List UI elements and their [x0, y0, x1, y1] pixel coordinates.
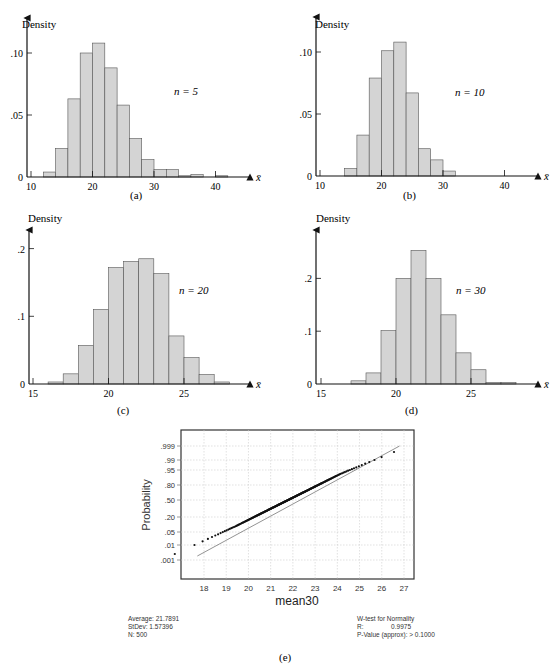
y-tick-label: .05 — [300, 109, 313, 120]
r-label: R: — [357, 623, 364, 630]
summary-stats: Average: 21.7891 StDev: 1.57396 N: 500 — [128, 615, 180, 638]
histogram-bars — [43, 43, 228, 177]
histogram-bar — [382, 51, 394, 176]
histogram-bar — [456, 353, 471, 384]
histogram-bar — [139, 259, 154, 384]
stat-average: Average: 21.7891 — [128, 615, 180, 623]
x-tick-label: 21 — [266, 584, 275, 593]
x-tick-label: 24 — [333, 584, 342, 593]
histogram-bar — [142, 160, 154, 177]
x-tick-label: 25 — [466, 388, 476, 399]
x-tick-label: 20 — [391, 388, 401, 399]
x-tick-label: 20 — [244, 584, 253, 593]
x-tick-label: 26 — [377, 584, 386, 593]
histogram-bar — [80, 53, 92, 177]
x-axis-symbol: x̄ — [255, 171, 261, 183]
histogram-bars — [48, 259, 229, 384]
x-tick-label: 23 — [311, 584, 320, 593]
histogram-bar — [166, 170, 178, 177]
data-point — [349, 469, 351, 471]
y-tick-label: 0 — [307, 379, 312, 390]
histogram-bar — [63, 374, 78, 384]
data-point — [351, 468, 353, 470]
normal-probability-plot: .001.01.05.20.50.80.95.99.999 1819202122… — [128, 430, 435, 664]
sample-size-annotation: n = 20 — [179, 284, 209, 296]
plot-frame — [181, 430, 414, 579]
histogram-bar — [406, 93, 418, 176]
y-tick-label: .2 — [305, 273, 313, 284]
histogram-bar — [154, 274, 169, 384]
y-tick-label: .2 — [18, 244, 26, 255]
histogram-bar — [441, 315, 456, 384]
data-point — [222, 531, 224, 533]
y-tick-label: .80 — [165, 481, 175, 490]
x-tick-label: 15 — [316, 388, 326, 399]
histogram-bar — [105, 68, 117, 177]
y-tick-label: 0 — [18, 172, 23, 183]
y-axis-label: Density — [315, 18, 350, 30]
data-point — [381, 456, 383, 458]
y-tick-label: .05 — [11, 110, 24, 121]
panel-caption: (b) — [403, 189, 416, 202]
y-tick-label: .1 — [18, 311, 26, 322]
histogram-bar — [366, 373, 381, 384]
x-tick-label: 18 — [200, 584, 209, 593]
y-axis-label: Density — [316, 212, 351, 224]
data-point — [364, 463, 366, 465]
histogram-bar — [199, 375, 214, 384]
x-tick-label: 19 — [222, 584, 231, 593]
y-tick-label: .01 — [165, 541, 175, 550]
histogram-bar — [93, 43, 105, 177]
x-tick-label: 25 — [179, 388, 189, 399]
x-tick-label: 20 — [88, 181, 98, 192]
histogram-bar — [117, 105, 129, 177]
x-axis-symbol: x̄ — [255, 378, 261, 390]
histogram-bar — [345, 169, 357, 176]
x-axis-symbol: x̄ — [543, 170, 549, 182]
data-point — [217, 533, 219, 535]
x-tick-label: 40 — [211, 181, 221, 192]
test-title: W-test for Normality — [357, 615, 415, 623]
y-tick-label: .001 — [160, 556, 175, 565]
histogram-bar — [169, 336, 184, 384]
histogram-bar — [56, 148, 68, 177]
x-tick-label: 27 — [400, 584, 409, 593]
histogram-bar — [426, 278, 441, 384]
histogram-bar — [394, 42, 406, 176]
figure: Density x̄0.05.1010203040 n = 5 (a) Dens… — [0, 0, 559, 672]
panel-caption: (c) — [117, 404, 130, 417]
data-point — [368, 461, 370, 463]
histogram-panel-a: Density x̄0.05.1010203040 n = 5 (a) — [11, 18, 262, 202]
panel-caption: (e) — [279, 651, 292, 664]
histogram-bar — [381, 331, 396, 384]
r-value: 0.9975 — [391, 623, 411, 630]
y-tick-label: .50 — [165, 496, 175, 505]
y-tick-label: .95 — [165, 466, 175, 475]
histogram-panel-d: Density x̄0.1.2152025 n = 30 (d) — [305, 212, 550, 417]
x-tick-label: 30 — [149, 181, 159, 192]
y-tick-label: .99 — [165, 456, 175, 465]
data-point — [361, 464, 363, 466]
histogram-bars — [345, 42, 456, 176]
panel-caption: (a) — [130, 189, 143, 202]
y-tick-label: 0 — [20, 379, 25, 390]
histogram-bar — [43, 172, 55, 177]
x-tick-label: 20 — [377, 180, 387, 191]
histogram-bar — [78, 345, 93, 384]
y-tick-label: .1 — [305, 326, 313, 337]
y-tick-label: .20 — [165, 513, 175, 522]
x-tick-labels: 18192021222324252627 — [200, 584, 409, 593]
sample-size-annotation: n = 5 — [174, 85, 198, 97]
histogram-bar — [471, 370, 486, 384]
y-tick-label: .05 — [165, 528, 175, 537]
stat-n: N: 500 — [128, 631, 148, 638]
data-point — [358, 465, 360, 467]
histogram-bar — [418, 149, 430, 176]
probability-tick-labels: .001.01.05.20.50.80.95.99.999 — [160, 442, 181, 565]
data-point — [214, 534, 216, 536]
data-point — [353, 467, 355, 469]
histogram-bar — [109, 268, 124, 384]
stat-stdev: StDev: 1.57396 — [128, 623, 173, 630]
histogram-bar — [184, 358, 199, 384]
histogram-bar — [369, 78, 381, 176]
